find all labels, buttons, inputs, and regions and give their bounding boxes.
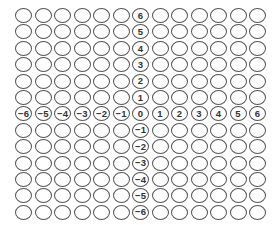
empty-circle — [74, 172, 91, 187]
empty-circle — [74, 123, 91, 138]
empty-circle — [15, 205, 32, 220]
empty-circle — [210, 57, 227, 72]
empty-circle — [152, 172, 169, 187]
x-axis-circle-label: 2 — [171, 106, 188, 121]
empty-circle — [171, 74, 188, 89]
empty-circle — [152, 8, 169, 23]
empty-circle — [249, 205, 266, 220]
empty-circle — [15, 24, 32, 39]
y-axis-circle-label: −6 — [132, 205, 149, 220]
empty-circle — [113, 41, 130, 56]
empty-circle — [191, 172, 208, 187]
empty-circle — [249, 57, 266, 72]
empty-circle — [35, 188, 52, 203]
x-axis-circle-label: 3 — [191, 106, 208, 121]
empty-circle — [74, 8, 91, 23]
empty-circle — [171, 8, 188, 23]
empty-circle — [230, 205, 247, 220]
empty-circle — [54, 57, 71, 72]
empty-circle — [35, 74, 52, 89]
empty-circle — [15, 172, 32, 187]
empty-circle — [74, 24, 91, 39]
empty-circle — [210, 123, 227, 138]
y-axis-circle-label: −1 — [132, 123, 149, 138]
empty-circle — [93, 90, 110, 105]
empty-circle — [74, 188, 91, 203]
empty-circle — [191, 188, 208, 203]
empty-circle — [93, 41, 110, 56]
empty-circle — [113, 188, 130, 203]
empty-circle — [230, 90, 247, 105]
empty-circle — [230, 156, 247, 171]
y-axis-circle-label: 6 — [132, 8, 149, 23]
empty-circle — [74, 57, 91, 72]
empty-circle — [54, 41, 71, 56]
empty-circle — [230, 123, 247, 138]
empty-circle — [171, 156, 188, 171]
empty-circle — [210, 188, 227, 203]
empty-circle — [210, 41, 227, 56]
empty-circle — [171, 57, 188, 72]
y-axis-circle-label: −2 — [132, 139, 149, 154]
empty-circle — [210, 90, 227, 105]
empty-circle — [35, 205, 52, 220]
empty-circle — [35, 24, 52, 39]
empty-circle — [191, 74, 208, 89]
empty-circle — [210, 205, 227, 220]
empty-circle — [191, 205, 208, 220]
empty-circle — [230, 41, 247, 56]
empty-circle — [15, 41, 32, 56]
empty-circle — [54, 188, 71, 203]
empty-circle — [35, 123, 52, 138]
empty-circle — [171, 188, 188, 203]
empty-circle — [191, 139, 208, 154]
empty-circle — [54, 90, 71, 105]
empty-circle — [191, 156, 208, 171]
x-axis-circle-label: 6 — [249, 106, 266, 121]
empty-circle — [191, 8, 208, 23]
coordinate-circle-grid: 654321−6−5−4−3−2−10123456−1−2−3−4−5−6 — [15, 8, 269, 221]
empty-circle — [15, 188, 32, 203]
empty-circle — [113, 123, 130, 138]
empty-circle — [74, 74, 91, 89]
empty-circle — [113, 24, 130, 39]
empty-circle — [54, 8, 71, 23]
x-axis-circle-label: 1 — [152, 106, 169, 121]
y-axis-circle-label: 5 — [132, 24, 149, 39]
empty-circle — [210, 24, 227, 39]
empty-circle — [113, 57, 130, 72]
empty-circle — [54, 24, 71, 39]
empty-circle — [152, 90, 169, 105]
empty-circle — [191, 41, 208, 56]
empty-circle — [152, 123, 169, 138]
x-axis-circle-label: −6 — [15, 106, 32, 121]
empty-circle — [249, 172, 266, 187]
empty-circle — [249, 24, 266, 39]
empty-circle — [15, 139, 32, 154]
empty-circle — [249, 41, 266, 56]
empty-circle — [35, 139, 52, 154]
empty-circle — [230, 139, 247, 154]
empty-circle — [113, 90, 130, 105]
x-axis-circle-label: 0 — [132, 106, 149, 121]
empty-circle — [171, 172, 188, 187]
empty-circle — [230, 74, 247, 89]
empty-circle — [15, 57, 32, 72]
empty-circle — [152, 24, 169, 39]
empty-circle — [152, 188, 169, 203]
empty-circle — [210, 74, 227, 89]
empty-circle — [54, 156, 71, 171]
empty-circle — [249, 74, 266, 89]
empty-circle — [93, 156, 110, 171]
empty-circle — [15, 123, 32, 138]
empty-circle — [230, 188, 247, 203]
x-axis-circle-label: −1 — [113, 106, 130, 121]
empty-circle — [152, 41, 169, 56]
empty-circle — [93, 188, 110, 203]
empty-circle — [35, 8, 52, 23]
x-axis-circle-label: 4 — [210, 106, 227, 121]
empty-circle — [113, 8, 130, 23]
empty-circle — [93, 8, 110, 23]
empty-circle — [54, 205, 71, 220]
empty-circle — [15, 74, 32, 89]
